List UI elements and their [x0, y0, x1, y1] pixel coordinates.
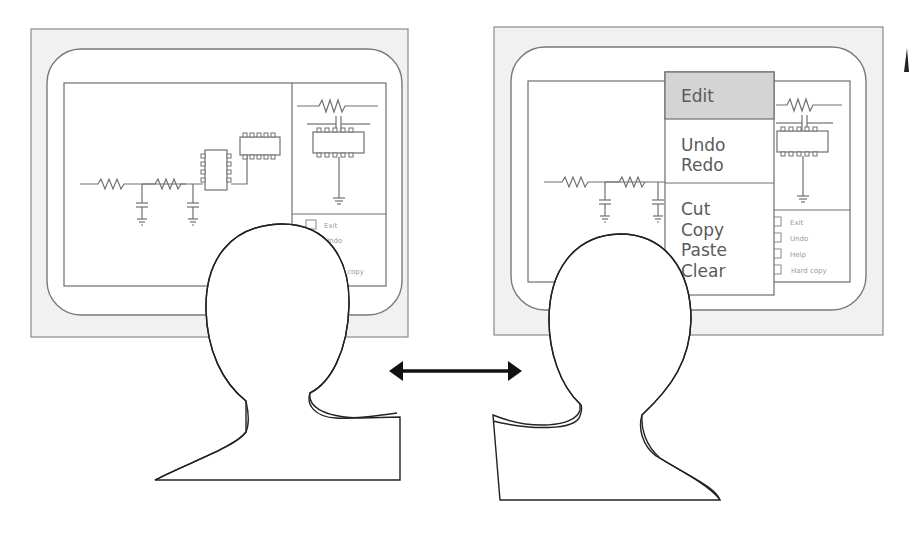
menu-item-clear[interactable]: Clear [681, 261, 725, 281]
help-label: Help [790, 251, 807, 259]
hard-copy-label: Hard copy [791, 267, 827, 275]
edit-menu[interactable]: Edit Undo Redo Cut Copy Paste Clear [665, 72, 774, 295]
edit-menu-title[interactable]: Edit [681, 86, 714, 106]
illustration: Exit Undo l copy [0, 0, 911, 537]
exit-label: Exit [324, 222, 338, 230]
undo-label: Undo [790, 235, 808, 243]
menu-item-redo[interactable]: Redo [681, 155, 724, 175]
edge-glyph-fragment [904, 48, 909, 72]
double-headed-arrow [389, 361, 522, 381]
menu-item-undo[interactable]: Undo [681, 135, 725, 155]
menu-item-cut[interactable]: Cut [681, 199, 711, 219]
exit-label: Exit [790, 219, 804, 227]
menu-item-paste[interactable]: Paste [681, 240, 727, 260]
menu-item-copy[interactable]: Copy [681, 220, 724, 240]
